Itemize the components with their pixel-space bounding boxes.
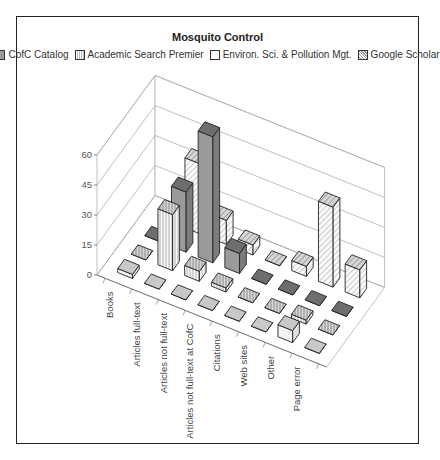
- y-tick-label: 30: [81, 209, 92, 220]
- category-label: Books: [104, 291, 115, 318]
- bar: [318, 192, 339, 287]
- y-tick-label: 60: [81, 149, 92, 160]
- category-label: Page error: [291, 366, 302, 411]
- category-label: Web sites: [238, 345, 249, 387]
- category-label: Citations: [211, 334, 222, 371]
- bar: [225, 238, 246, 273]
- category-label: Articles full-text: [131, 302, 142, 367]
- y-tick-label: 15: [81, 239, 92, 250]
- bar: [198, 122, 219, 263]
- y-tick-label: 0: [87, 269, 92, 280]
- bar: [345, 255, 366, 298]
- category-label: Other: [265, 356, 276, 380]
- category-label: Articles not full-text: [158, 313, 169, 394]
- category-label: Articles not full-text at CofC: [184, 324, 195, 439]
- y-tick-label: 45: [81, 179, 92, 190]
- bar: [158, 200, 179, 271]
